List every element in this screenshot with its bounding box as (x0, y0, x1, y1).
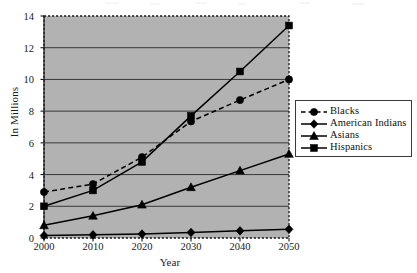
x-tick-label: 2010 (69, 241, 117, 252)
x-tick-label: 2040 (216, 241, 264, 252)
plot-background (44, 16, 289, 238)
legend-key-triangle-icon (300, 128, 328, 140)
data-point-diamond (310, 120, 318, 129)
legend-item-asians[interactable]: Asians (300, 128, 407, 140)
data-point-square (41, 203, 48, 210)
legend-key-diamond-icon (300, 116, 328, 128)
x-tick-label: 2000 (20, 241, 68, 252)
x-axis-tick-labels: 200020102020203020402050 (0, 241, 417, 257)
x-tick-label: 2030 (167, 241, 215, 252)
data-point-square (311, 145, 318, 152)
data-point-circle (285, 76, 292, 83)
data-point-square (139, 158, 146, 165)
legend-label: Blacks (328, 105, 359, 116)
data-point-circle (310, 108, 317, 115)
data-point-square (90, 187, 97, 194)
legend-item-hispanics[interactable]: Hispanics (300, 140, 407, 152)
y-tick-label: 12 (4, 42, 34, 53)
x-tick-label: 2020 (118, 241, 166, 252)
data-point-circle (236, 96, 243, 103)
legend-label: American Indians (328, 117, 407, 128)
legend-key-square-icon (300, 140, 328, 152)
y-axis-title: In Millions (8, 67, 20, 157)
legend-key-circle-icon (300, 104, 328, 116)
y-tick-label: 14 (4, 11, 34, 22)
legend-label: Hispanics (328, 141, 372, 152)
data-point-square (188, 113, 195, 120)
legend-label: Asians (328, 129, 359, 140)
chart-legend: BlacksAmerican IndiansAsiansHispanics (295, 100, 412, 157)
y-tick-label: 2 (4, 201, 34, 212)
data-point-square (237, 68, 244, 75)
x-tick-label: 2050 (265, 241, 313, 252)
y-tick-label: 4 (4, 169, 34, 180)
data-point-square (286, 22, 293, 29)
data-point-circle (89, 180, 96, 187)
chart-figure: 02468101214 200020102020203020402050 In … (0, 0, 417, 273)
legend-item-blacks[interactable]: Blacks (300, 104, 407, 116)
x-axis-title: Year (40, 256, 300, 268)
legend-item-american-indians[interactable]: American Indians (300, 116, 407, 128)
data-point-circle (40, 188, 47, 195)
